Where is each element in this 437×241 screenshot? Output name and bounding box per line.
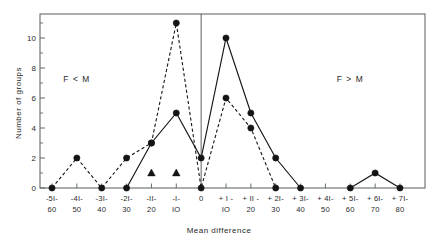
y-axis-ticks [40, 23, 45, 188]
y-tick-label: 0 [32, 184, 37, 193]
x-tick-label-value: 40 [296, 205, 305, 214]
data-point-marker [99, 185, 105, 191]
x-tick-label-range: + I - [219, 194, 234, 203]
x-tick-label-value: 80 [396, 205, 405, 214]
plot-frame [40, 14, 425, 188]
x-tick-label-value: IO [222, 205, 230, 214]
x-tick-label-value: 30 [122, 205, 131, 214]
series-line-dashed [52, 23, 276, 188]
x-tick-label-value: 40 [97, 205, 106, 214]
data-point-marker [49, 185, 55, 191]
y-tick-label: 2 [32, 154, 37, 163]
data-point-marker [297, 185, 303, 191]
x-tick-label-range: -4I- [71, 194, 83, 203]
x-axis-label: Mean difference [187, 226, 252, 235]
x-tick-label-value: 50 [72, 205, 81, 214]
y-axis-tick-labels: 0246810 [27, 34, 36, 193]
data-point-marker [173, 110, 179, 116]
data-point-marker [223, 35, 229, 41]
data-point-marker [123, 185, 129, 191]
data-point-marker [173, 20, 179, 26]
data-point-marker [347, 185, 353, 191]
data-point-triangle [172, 169, 180, 176]
x-tick-label-range: + 7I- [392, 194, 409, 203]
x-tick-label-value: 60 [346, 205, 355, 214]
x-tick-label-range: + 5I- [342, 194, 359, 203]
data-point-marker [74, 155, 80, 161]
x-tick-label-range: -I- [172, 194, 180, 203]
x-tick-label-value: 60 [48, 205, 57, 214]
x-tick-label-range: + II - [243, 194, 260, 203]
data-point-marker [248, 125, 254, 131]
x-tick-label-range: 0 [199, 194, 203, 203]
x-tick-label-value: 20 [147, 205, 156, 214]
data-point-marker [198, 185, 204, 191]
data-point-marker [372, 170, 378, 176]
chart-annotation: F < M [63, 74, 90, 84]
x-tick-label-range: + 2I- [268, 194, 285, 203]
x-axis-tick-labels: -5I-60-4I-50-3I-40-2I-30-II-20-I-IO0+ I … [46, 194, 409, 214]
x-tick-label-range: + 3I- [292, 194, 309, 203]
chart-annotation: F > M [337, 74, 364, 84]
x-tick-label-range: -2I- [120, 194, 132, 203]
line-chart-svg: 0246810 -5I-60-4I-50-3I-40-2I-30-II-20-I… [0, 0, 437, 241]
x-tick-label-value: 30 [271, 205, 280, 214]
x-tick-label-range: + 4I- [317, 194, 334, 203]
x-tick-label-value: 20 [246, 205, 255, 214]
series-line-solid [127, 38, 301, 188]
y-tick-label: 6 [32, 94, 37, 103]
y-tick-label: 8 [32, 64, 37, 73]
x-tick-label-value: 50 [321, 205, 330, 214]
data-point-triangle [148, 169, 156, 176]
data-point-marker [248, 110, 254, 116]
data-point-marker [397, 185, 403, 191]
x-tick-label-range: + 6I- [367, 194, 384, 203]
x-tick-label-value: 70 [371, 205, 380, 214]
data-series [49, 20, 403, 191]
x-tick-label-value: IO [172, 205, 180, 214]
data-point-marker [198, 155, 204, 161]
y-tick-label: 4 [32, 124, 37, 133]
data-point-marker [273, 185, 279, 191]
data-point-marker [123, 155, 129, 161]
data-point-marker [273, 155, 279, 161]
data-point-marker [223, 95, 229, 101]
x-tick-label-range: -5I- [46, 194, 58, 203]
data-point-marker [148, 140, 154, 146]
y-axis-label: Number of groups [14, 67, 23, 139]
x-tick-label-range: -3I- [96, 194, 108, 203]
chart-figure: 0246810 -5I-60-4I-50-3I-40-2I-30-II-20-I… [0, 0, 437, 241]
y-tick-label: 10 [27, 34, 36, 43]
chart-annotations: F < MF > M [63, 74, 364, 84]
x-tick-label-range: -II- [146, 194, 156, 203]
